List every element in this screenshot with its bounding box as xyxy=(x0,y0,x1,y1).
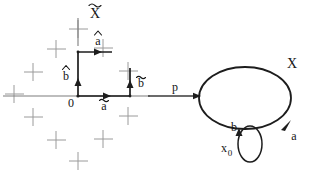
label-b-hat-text: b xyxy=(63,69,69,83)
lattice-marks xyxy=(5,20,138,170)
lattice-mark xyxy=(69,152,88,170)
space-label: X xyxy=(287,56,297,71)
origin-label: 0 xyxy=(68,96,74,110)
lattice-title-text: X xyxy=(90,6,100,21)
basepoint-label: x 0 xyxy=(221,141,233,158)
vector-b-hat xyxy=(75,52,82,96)
lattice-title: X xyxy=(89,4,101,21)
lattice-mark xyxy=(47,131,66,149)
lattice-mark xyxy=(5,85,24,103)
lattice-mark xyxy=(119,107,138,125)
label-a-hat: a xyxy=(95,31,102,48)
lattice-mark xyxy=(47,40,66,58)
lattice-mark xyxy=(119,62,138,80)
lattice-mark xyxy=(24,108,43,126)
space-ellipse xyxy=(199,67,291,129)
lattice-vectors xyxy=(75,49,134,100)
basepoint-base: x xyxy=(221,141,227,155)
covering-map-label: p xyxy=(172,80,178,94)
label-a-hat-text: a xyxy=(95,34,101,48)
figure-canvas: X 0 a b a b xyxy=(0,0,312,186)
loop-a-label: a xyxy=(291,129,297,143)
loop-a-arrowhead xyxy=(281,120,291,131)
label-b-bar: b xyxy=(137,76,146,90)
right-node xyxy=(129,95,132,98)
loop-b-label: b xyxy=(231,120,237,134)
origin-node xyxy=(76,94,79,97)
loop-b-ellipse xyxy=(238,126,262,162)
lattice-mark xyxy=(94,130,113,148)
covering-map-arrow: p xyxy=(148,80,201,99)
figure-root: X 0 a b a b xyxy=(0,0,312,186)
lattice-panel: X 0 a b a b xyxy=(3,4,150,170)
upper-node xyxy=(77,51,80,54)
loop-panel: p X a b x 0 xyxy=(148,56,297,162)
basepoint-subscript: 0 xyxy=(228,148,233,158)
label-b-hat: b xyxy=(63,66,70,84)
label-a-tilde: a xyxy=(100,99,109,113)
lattice-mark xyxy=(24,63,43,81)
vector-a-hat xyxy=(78,49,112,56)
